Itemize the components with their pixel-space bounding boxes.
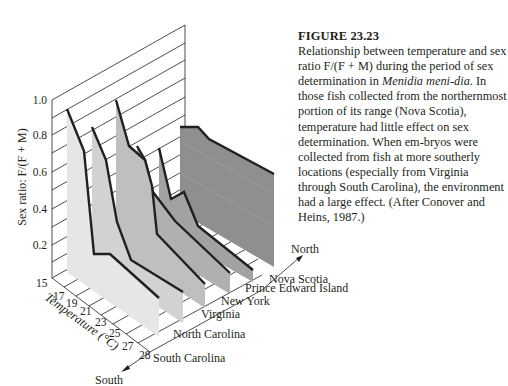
y-tick-label: 0.2 [33, 239, 48, 251]
caption-text: Relationship between temperature and sex… [298, 44, 508, 225]
figure-label: FIGURE 23.23 [298, 29, 508, 44]
location-label: South Carolina [153, 351, 226, 365]
y-axis-label: Sex ratio: F/(F + M) [15, 128, 29, 225]
y-tick-label: 1.0 [33, 94, 48, 106]
x-tick-label: 28 [139, 349, 151, 361]
y-tick-label: 0.4 [33, 203, 48, 215]
y-tick-label: 0.6 [33, 166, 48, 178]
south-arrow [121, 352, 150, 372]
x-tick-label: 27 [122, 340, 134, 352]
species-name: Menidia meni-dia [382, 74, 470, 88]
caption-text-part2: . In those fish collected from the north… [298, 74, 507, 224]
south-label: South [95, 373, 123, 386]
north-label: North [291, 242, 319, 256]
x-tick-label: 15 [36, 277, 48, 289]
location-label: Virginia [201, 307, 241, 321]
location-label: Nova Scotia [269, 272, 329, 286]
location-label: New York [221, 294, 270, 308]
y-axis: 1.0 0.8 0.6 0.4 0.2 [33, 94, 48, 251]
location-label: North Carolina [173, 327, 246, 341]
figure-caption: FIGURE 23.23 Relationship between temper… [298, 29, 508, 225]
y-tick-label: 0.8 [33, 129, 48, 141]
